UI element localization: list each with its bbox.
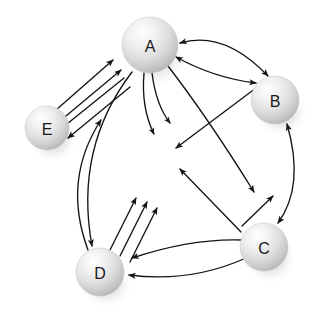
edge-b-to-d xyxy=(176,88,256,148)
edge-c-to-a xyxy=(180,169,241,232)
node-d[interactable]: D xyxy=(76,248,124,296)
edge-c-to-b xyxy=(242,196,273,226)
edge-c-to-d-upper xyxy=(132,240,243,258)
edge-e-to-a-1 xyxy=(56,60,113,110)
edge-c-to-d-lower xyxy=(129,258,246,277)
edge-a-b-lower xyxy=(176,57,256,83)
node-b[interactable]: B xyxy=(251,76,299,124)
directed-graph-diagram: A B C D E xyxy=(0,0,320,313)
node-e[interactable]: E xyxy=(25,106,69,150)
node-a[interactable]: A xyxy=(122,17,178,73)
graph-canvas: A B C D E xyxy=(0,0,320,313)
node-e-circle[interactable] xyxy=(25,106,69,150)
edge-e-to-a-2 xyxy=(60,70,121,121)
edge-a-to-e-1 xyxy=(62,78,124,128)
node-a-circle[interactable] xyxy=(122,17,178,73)
node-c-circle[interactable] xyxy=(240,223,288,271)
edge-d-to-b-2 xyxy=(120,202,147,256)
edge-b-c-bidirectional xyxy=(278,124,294,223)
edge-a-to-c xyxy=(168,66,254,192)
node-d-circle[interactable] xyxy=(76,248,124,296)
edge-a-to-e-2 xyxy=(68,87,130,138)
edge-a-b-upper xyxy=(180,40,268,76)
node-b-circle[interactable] xyxy=(251,76,299,124)
node-c[interactable]: C xyxy=(240,223,288,271)
edge-d-to-b-1 xyxy=(109,198,136,252)
